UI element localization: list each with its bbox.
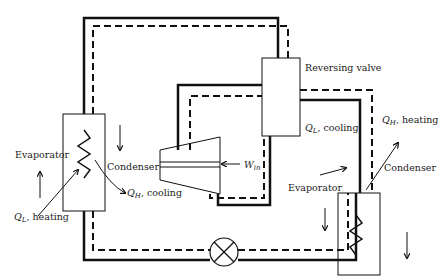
work-in-label: Win [244, 160, 261, 172]
ql-cooling-label: QL, cooling [305, 123, 359, 135]
left-condenser-label: Condenser [107, 162, 159, 172]
left-coil [78, 130, 90, 178]
left-heat-exchanger [63, 114, 105, 211]
right-condenser-label: Condenser [384, 163, 436, 173]
reversing-valve-label: Reversing valve [305, 63, 382, 73]
qh-cooling-label: QH, cooling [127, 188, 182, 200]
reversing-valve [262, 58, 300, 136]
right-heat-exchanger [338, 193, 380, 275]
ql-heating-label: QL, heating [14, 212, 69, 224]
heat-pump-diagram: Reversing valve Evaporator Condenser Eva… [0, 0, 448, 280]
qh-heating-label: QH, heating [382, 115, 438, 127]
right-evaporator-label: Evaporator [288, 183, 342, 193]
left-evaporator-label: Evaporator [15, 150, 69, 160]
diagram-lines [0, 0, 448, 280]
